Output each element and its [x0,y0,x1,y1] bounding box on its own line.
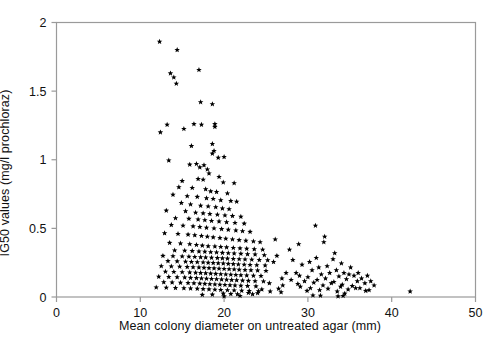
data-point [355,278,361,283]
data-point [224,219,230,224]
data-point [368,278,374,283]
x-tick-label: 40 [385,306,399,320]
data-point [320,282,326,287]
data-point [247,229,253,234]
plot-frame [57,23,476,298]
data-point [241,262,247,267]
data-point [274,253,280,258]
data-point [238,214,244,219]
y-tick-label: 1.5 [29,85,46,99]
data-point [252,278,258,283]
data-point [228,198,234,203]
data-point [215,255,221,260]
data-point [203,270,209,275]
data-point [181,285,187,290]
data-point [334,267,340,272]
data-point [233,228,239,233]
data-point [205,260,211,265]
data-point [214,276,220,281]
data-point [190,185,196,190]
data-point [193,210,199,215]
data-point [190,223,196,228]
data-point [240,278,246,283]
data-point [316,265,322,270]
data-point [206,265,212,270]
data-point [181,126,187,131]
data-point [322,234,328,239]
data-point [161,279,167,284]
data-point [254,262,260,267]
data-point [212,244,218,249]
data-point [199,122,205,127]
data-point [267,280,273,285]
data-point [332,250,338,255]
data-point [190,264,196,269]
data-point [216,219,222,224]
data-point [200,243,206,248]
data-point [198,99,204,104]
data-point [327,270,333,275]
data-point [314,277,320,282]
data-point [183,208,189,213]
data-point [293,270,299,275]
data-point [231,261,237,266]
data-point [196,265,202,270]
data-point [296,241,302,246]
data-point [204,276,210,281]
data-point [202,281,208,286]
data-point [220,255,226,260]
data-point [241,221,247,226]
data-point [317,287,323,292]
data-point [172,247,178,252]
data-point [218,197,224,202]
data-point [194,242,200,247]
data-point [191,121,197,126]
data-point [225,256,231,261]
data-point [351,273,357,278]
data-point [276,286,282,291]
data-point [167,240,173,245]
data-point [200,286,206,291]
data-point [357,285,363,290]
data-point [228,272,234,277]
data-point [224,277,230,282]
data-point [187,162,193,167]
data-point [348,265,354,270]
data-point [212,281,218,286]
data-point [237,245,243,250]
data-point [200,177,206,182]
data-point [198,254,204,259]
data-point [203,255,209,260]
data-point [214,189,220,194]
data-point [247,262,253,267]
data-point [255,268,261,273]
data-point [206,286,212,291]
y-axis-title: IG50 values (mg/l prochloraz) [0,0,18,346]
x-tick-label: 10 [133,306,147,320]
data-point [179,200,185,205]
data-point [163,269,169,274]
data-point [225,190,231,195]
data-point [180,223,186,228]
data-point [219,277,225,282]
data-point [209,255,215,260]
data-point [186,216,192,221]
data-point [194,161,200,166]
data-point [334,289,340,294]
data-point [220,206,226,211]
data-point [170,253,176,258]
data-point [188,275,194,280]
data-point [164,122,170,127]
data-point [221,266,227,271]
data-point [182,248,188,253]
data-point [258,273,264,278]
data-point [221,180,227,185]
data-point [174,258,180,263]
data-point [210,234,216,239]
data-point [231,256,237,261]
data-point [230,213,236,218]
data-point [184,264,190,269]
data-point [201,265,207,270]
data-point [173,215,179,220]
data-point [252,246,258,251]
